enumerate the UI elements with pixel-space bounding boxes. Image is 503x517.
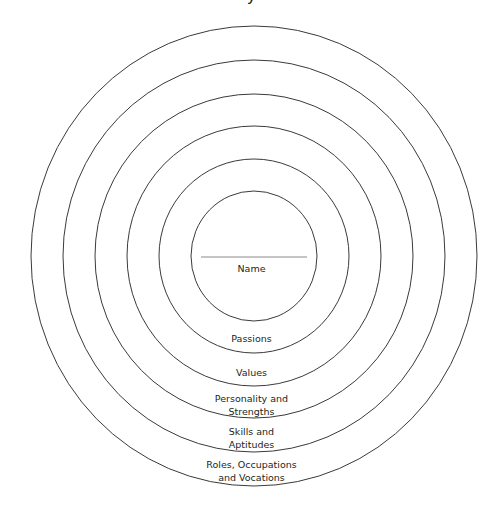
label-values: Values xyxy=(0,366,503,379)
label-passions: Passions xyxy=(0,332,503,345)
label-roles-line2: and Vocations xyxy=(0,471,503,484)
label-skills-line2: Aptitudes xyxy=(0,438,503,451)
label-skills-line1: Skills and xyxy=(0,425,503,438)
ring-passions xyxy=(159,159,349,353)
label-roles-line1: Roles, Occupations xyxy=(0,458,503,471)
label-personality-line2: Strengths xyxy=(0,405,503,418)
ring-values xyxy=(127,126,381,386)
label-personality-line1: Personality and xyxy=(0,392,503,405)
label-name: Name xyxy=(0,262,503,275)
ring-name xyxy=(191,191,317,321)
